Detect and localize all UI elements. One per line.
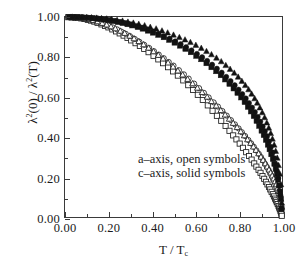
y-tick-major (65, 179, 70, 180)
y-tick-minor (65, 118, 68, 119)
data-point (214, 113, 219, 118)
data-point (223, 123, 228, 128)
x-axis-title: T / Tc (64, 243, 283, 256)
y-tick-minor (65, 158, 68, 159)
data-point (240, 91, 245, 96)
x-tick-label: 0.80 (229, 222, 252, 235)
data-point (214, 55, 220, 60)
y-tick-major (65, 138, 70, 139)
legend-entry-c-axis: c–axis, solid symbols (138, 166, 245, 180)
y-tick-major (65, 98, 70, 99)
y-tick-major (65, 219, 70, 220)
data-point (259, 109, 265, 114)
x-tick-minor (262, 214, 263, 217)
data-point (178, 42, 183, 47)
data-point (218, 58, 224, 63)
x-tick-minor (131, 214, 132, 217)
x-tick-major (240, 212, 241, 217)
y-tick-minor (65, 78, 68, 79)
data-point (182, 37, 188, 42)
data-point (262, 114, 268, 119)
x-tick-label: 0.20 (97, 222, 120, 235)
data-point (228, 78, 233, 83)
data-point (184, 45, 189, 50)
y-tick-label: 0.60 (37, 92, 60, 105)
data-point (188, 39, 194, 44)
x-tick-minor (218, 214, 219, 217)
data-point (194, 51, 199, 56)
data-point (205, 58, 210, 63)
data-point (279, 205, 284, 210)
data-point (171, 32, 177, 37)
y-tick-minor (65, 37, 68, 38)
x-tick-label: 1.00 (273, 222, 296, 235)
y-tick-label: 0.20 (37, 172, 60, 185)
data-point (264, 120, 270, 125)
y-tick-label: 0.80 (37, 51, 60, 64)
y-tick-label: 1.00 (37, 11, 60, 24)
data-point (200, 55, 205, 60)
data-point (246, 100, 251, 105)
data-point (153, 26, 159, 31)
data-point (232, 83, 237, 88)
data-point (278, 193, 283, 198)
x-tick-minor (87, 214, 88, 217)
data-point (189, 48, 194, 53)
y-tick-minor (65, 199, 68, 200)
x-tick-major (196, 212, 197, 217)
y-axis-title: λ2(0) / λ2(T) (26, 13, 39, 173)
x-tick-major (65, 212, 66, 217)
x-tick-label: 0.00 (54, 222, 77, 235)
data-point (210, 108, 215, 113)
data-point (198, 45, 204, 50)
data-point (224, 74, 229, 79)
data-point (193, 42, 199, 47)
data-point (266, 125, 272, 130)
data-point (219, 118, 224, 123)
x-tick-major (284, 212, 285, 217)
data-point (176, 34, 182, 39)
data-point (165, 30, 171, 35)
data-point (210, 62, 215, 67)
data-scatter-layer (65, 17, 282, 217)
plot-frame: 0.000.200.400.600.801.000.000.200.400.60… (64, 16, 283, 218)
x-tick-minor (175, 214, 176, 217)
data-point (243, 96, 248, 101)
data-point (236, 87, 241, 92)
legend-entry-a-axis: a–axis, open symbols (138, 152, 245, 166)
y-tick-major (65, 57, 70, 58)
legend: a–axis, open symbols c–axis, solid symbo… (138, 152, 245, 180)
data-point (214, 66, 219, 71)
data-point (268, 130, 274, 135)
figure-root: 0.000.200.400.600.801.000.000.200.400.60… (0, 0, 299, 270)
data-point (257, 105, 263, 110)
x-tick-major (109, 212, 110, 217)
x-tick-label: 0.60 (185, 222, 208, 235)
y-tick-label: 0.40 (37, 132, 60, 145)
data-point (270, 136, 276, 141)
data-point (209, 51, 215, 56)
data-point (219, 70, 224, 75)
x-tick-major (153, 212, 154, 217)
data-point (159, 28, 165, 33)
y-tick-major (65, 17, 70, 18)
x-tick-label: 0.40 (141, 222, 164, 235)
data-point (204, 48, 210, 53)
